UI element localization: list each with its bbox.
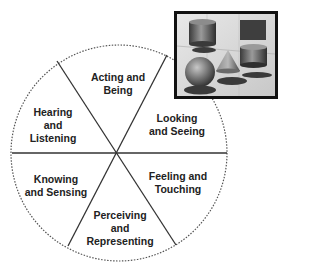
segment-looking-and-seeing: Looking and Seeing [149, 112, 205, 138]
segment-label-line: and [86, 222, 153, 235]
segment-label-line: Touching [149, 183, 207, 196]
shapes-illustration [177, 14, 275, 96]
segment-hearing-and-listening: Hearing and Listening [30, 106, 77, 145]
segment-label-line: and Sensing [25, 186, 87, 199]
segment-label-line: Acting and [91, 71, 145, 84]
sphere-shape [185, 57, 215, 87]
geometric-shapes-image [174, 11, 278, 99]
segment-feeling-and-touching: Feeling and Touching [149, 170, 207, 196]
shadow-ellipse [242, 72, 272, 78]
segment-perceiving-and-representing: Perceiving and Representing [86, 209, 153, 248]
segment-label-line: and Seeing [149, 125, 205, 138]
shadow-ellipse [217, 77, 247, 85]
segment-label-line: Listening [30, 132, 77, 145]
segment-label-line: Representing [86, 235, 153, 248]
segment-label-line: Being [91, 84, 145, 97]
segment-acting-and-being: Acting and Being [91, 71, 145, 97]
segment-label-line: Looking [149, 112, 205, 125]
segment-label-line: Hearing [30, 106, 77, 119]
segment-label-line: Knowing [25, 173, 87, 186]
segment-label-line: Perceiving [86, 209, 153, 222]
cylinder-shape [189, 19, 216, 47]
shadow-ellipse [192, 47, 216, 53]
segment-label-line: and [30, 119, 77, 132]
segment-label-line: Feeling and [149, 170, 207, 183]
segment-knowing-and-sensing: Knowing and Sensing [25, 173, 87, 199]
shadow-ellipse [184, 86, 216, 95]
cube-shape [240, 20, 266, 40]
cylinder-shape [240, 44, 267, 68]
